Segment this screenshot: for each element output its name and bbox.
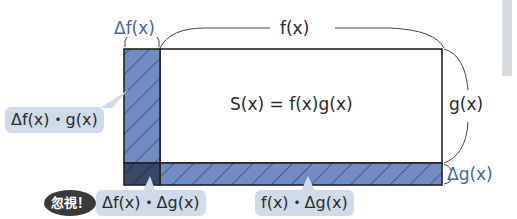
bottom-strip-bubble: f(x)・Δg(x) [255, 190, 354, 216]
left-strip [124, 49, 160, 163]
corner-bubble: Δf(x)・Δg(x) [96, 190, 206, 216]
delta-g-label: Δg(x) [447, 164, 493, 184]
f-label: f(x) [280, 18, 309, 38]
area-formula: S(x) = f(x)g(x) [230, 94, 353, 114]
g-label: g(x) [449, 94, 483, 114]
delta-f-label: Δf(x) [114, 18, 155, 38]
bottom-strip [160, 163, 442, 185]
left-strip-bubble: Δf(x)・g(x) [5, 107, 104, 133]
ignore-badge: 忽視！ [44, 190, 96, 216]
corner-square [124, 163, 160, 185]
side-scrollbar [502, 0, 512, 76]
